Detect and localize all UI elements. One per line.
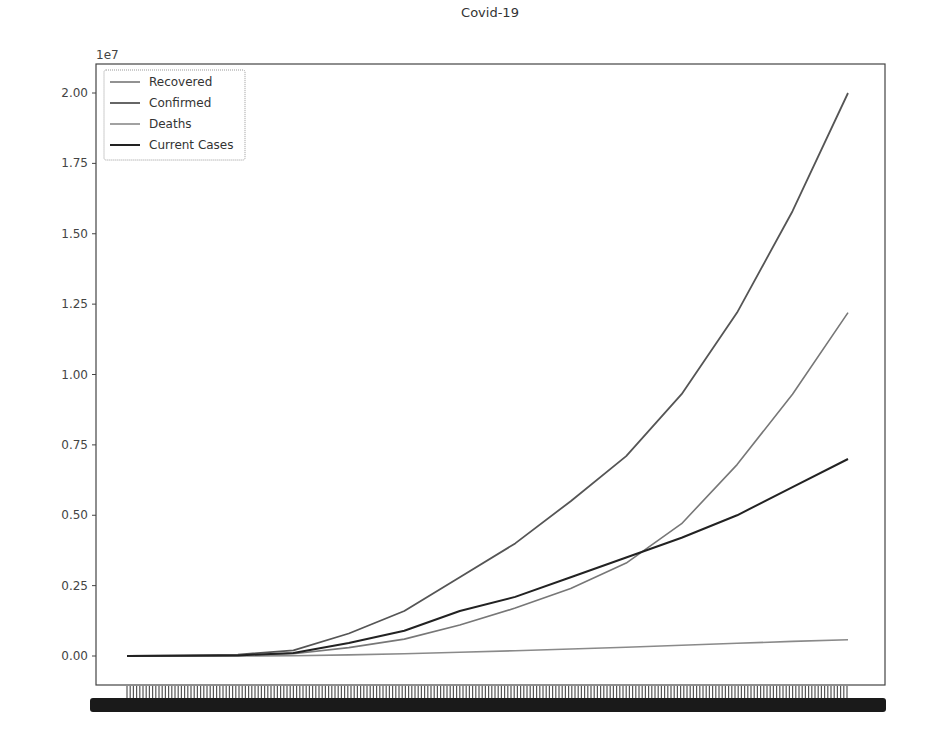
x-axis-tick-labels bbox=[90, 686, 886, 712]
legend-label: Deaths bbox=[149, 117, 192, 131]
series-line-confirmed bbox=[127, 93, 848, 656]
y-tick-label: 1.50 bbox=[61, 227, 88, 241]
y-tick-label: 2.00 bbox=[61, 86, 88, 100]
y-tick-label: 0.50 bbox=[61, 508, 88, 522]
y-offset-label: 1e7 bbox=[96, 48, 119, 62]
y-tick-label: 0.25 bbox=[61, 579, 88, 593]
y-tick-label: 1.25 bbox=[61, 297, 88, 311]
legend-label: Recovered bbox=[149, 75, 212, 89]
plot-lines bbox=[127, 93, 848, 656]
series-line-current-cases bbox=[127, 459, 848, 656]
y-tick-label: 1.00 bbox=[61, 368, 88, 382]
chart-title: Covid-19 bbox=[461, 5, 519, 20]
series-line-deaths bbox=[127, 640, 848, 656]
legend: RecoveredConfirmedDeathsCurrent Cases bbox=[104, 70, 245, 160]
line-chart: Covid-19 1e7 0.000.250.500.751.001.251.5… bbox=[0, 0, 931, 745]
y-axis: 0.000.250.500.751.001.251.501.752.00 bbox=[61, 86, 96, 663]
legend-label: Confirmed bbox=[149, 96, 211, 110]
x-tick-labels-overlap bbox=[90, 698, 886, 712]
y-tick-label: 1.75 bbox=[61, 156, 88, 170]
y-tick-label: 0.00 bbox=[61, 649, 88, 663]
y-tick-label: 0.75 bbox=[61, 438, 88, 452]
legend-label: Current Cases bbox=[149, 138, 234, 152]
